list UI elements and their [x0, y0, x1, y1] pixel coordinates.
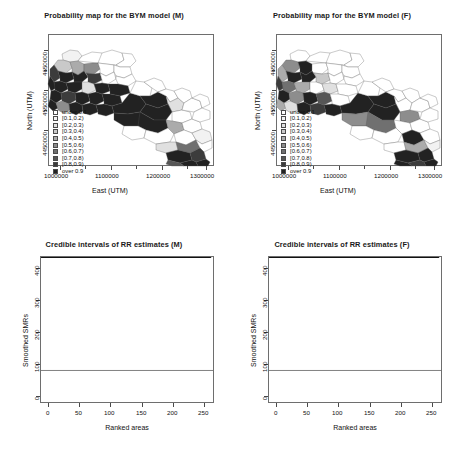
x-tick	[136, 166, 137, 169]
x-tick	[364, 166, 365, 169]
legend-swatch	[53, 169, 58, 174]
y-tick-label: 400	[33, 266, 40, 276]
panel-title: Probability map for the BYM model (M)	[0, 11, 228, 20]
x-tick	[415, 166, 416, 169]
x-tick-label: 1100000	[323, 172, 347, 179]
x-tick-label: 100	[104, 409, 114, 416]
legend-label: [0.6,0.7)	[62, 148, 84, 154]
x-tick-label: 150	[364, 409, 374, 416]
x-tick-label: 0	[46, 409, 49, 416]
y-tick-label: 4550000	[41, 92, 48, 116]
panel-title: Credible intervals of RR estimates (F)	[228, 240, 456, 249]
x-tick	[204, 403, 205, 407]
x-tick-label: 100	[332, 409, 342, 416]
legend-label: under 0.1	[62, 109, 87, 115]
y-tick-label: 200	[261, 330, 268, 340]
panel-map-male: Probability map for the BYM model (M) 46…	[0, 0, 228, 232]
x-tick	[173, 403, 174, 407]
x-tick	[432, 403, 433, 407]
legend-swatch	[53, 143, 58, 148]
x-tick	[48, 403, 49, 407]
legend-label: [0.7,0.8)	[290, 155, 312, 161]
x-tick	[370, 403, 371, 407]
x-tick	[339, 166, 340, 170]
x-tick	[162, 166, 163, 170]
legend-label: over 0.9	[290, 168, 311, 174]
x-tick-label: 1100000	[95, 172, 119, 179]
legend-swatch	[281, 110, 286, 115]
y-tick-label: 300	[261, 298, 268, 308]
legend-label: [0.2,0.3)	[290, 122, 312, 128]
legend-label: [0.4,0.5)	[62, 135, 84, 141]
x-tick-label: 1200000	[374, 172, 398, 179]
legend-label: [0.4,0.5)	[290, 135, 312, 141]
legend-swatch	[281, 162, 286, 167]
legend-swatch	[281, 116, 286, 121]
legend-swatch	[53, 116, 58, 121]
panel-title: Probability map for the BYM model (F)	[228, 11, 456, 20]
legend-swatch	[53, 162, 58, 167]
x-tick	[288, 166, 289, 170]
x-tick-label: 0	[274, 409, 277, 416]
y-tick-label: 4650000	[269, 52, 276, 76]
x-tick-label: 50	[75, 409, 82, 416]
x-tick-label: 1300000	[190, 172, 214, 179]
x-tick	[313, 166, 314, 169]
y-tick-label: 4450000	[269, 132, 276, 156]
legend-label: [0.6,0.7)	[290, 148, 312, 154]
x-tick	[276, 403, 277, 407]
y-tick-label: 400	[261, 266, 268, 276]
x-axis-label: Ranked areas	[333, 424, 377, 431]
legend-label: [0.8,0.9)	[62, 161, 84, 167]
legend-swatch	[281, 143, 286, 148]
figure-canvas: Probability map for the BYM model (M) 46…	[0, 0, 456, 465]
x-tick	[79, 403, 80, 407]
x-tick-label: 1300000	[418, 172, 442, 179]
legend-label: [0.8,0.9)	[290, 161, 312, 167]
y-axis-label: North (UTM)	[254, 91, 261, 130]
legend-swatch	[281, 129, 286, 134]
y-tick-label: 0	[33, 397, 40, 400]
legend-swatch	[281, 156, 286, 161]
y-tick-label: 4450000	[41, 132, 48, 156]
y-axis-label: Smoothed SMRs	[250, 314, 257, 367]
legend-label: [0.3,0.4)	[62, 128, 84, 134]
x-axis-label: East (UTM)	[320, 187, 356, 194]
x-tick	[401, 403, 402, 407]
legend-label: [0.1,0.2)	[62, 115, 84, 121]
x-tick	[390, 166, 391, 170]
x-tick	[338, 403, 339, 407]
legend-swatch	[281, 149, 286, 154]
x-tick-label: 200	[395, 409, 405, 416]
x-tick-label: 50	[303, 409, 310, 416]
panel-title: Credible intervals of RR estimates (M)	[0, 240, 228, 249]
x-axis-label: East (UTM)	[92, 187, 128, 194]
x-tick-label: 1200000	[146, 172, 170, 179]
x-tick	[110, 403, 111, 407]
y-tick-label: 300	[33, 298, 40, 308]
y-tick-label: 100	[261, 362, 268, 372]
legend-label: over 0.9	[62, 168, 83, 174]
legend-label: [0.5,0.6)	[62, 142, 84, 148]
legend-label: [0.7,0.8)	[62, 155, 84, 161]
x-tick	[187, 166, 188, 169]
x-axis-label: Ranked areas	[105, 424, 149, 431]
legend-swatch	[281, 123, 286, 128]
legend-label: [0.1,0.2)	[290, 115, 312, 121]
x-tick	[307, 403, 308, 407]
legend-label: [0.5,0.6)	[290, 142, 312, 148]
legend-swatch	[53, 110, 58, 115]
legend-swatch	[53, 123, 58, 128]
x-tick	[142, 403, 143, 407]
x-tick	[60, 166, 61, 170]
panel-map-female: Probability map for the BYM model (F) 46…	[228, 0, 456, 232]
legend-label: under 0.1	[290, 109, 315, 115]
credible-interval-plot	[41, 257, 213, 402]
x-tick	[434, 166, 435, 170]
y-tick-label: 100	[33, 362, 40, 372]
x-tick	[111, 166, 112, 170]
legend-swatch	[281, 136, 286, 141]
y-axis-label: Smoothed SMRs	[22, 314, 29, 367]
y-axis-label: North (UTM)	[26, 91, 33, 130]
legend-swatch	[53, 149, 58, 154]
